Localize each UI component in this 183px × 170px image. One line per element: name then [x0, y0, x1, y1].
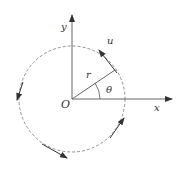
velocity-label: u [107, 35, 113, 46]
angle-arc [95, 83, 100, 99]
polar-diagram: y x O r θ u [0, 0, 183, 170]
y-axis-label: y [60, 21, 67, 32]
radius-label: r [86, 69, 92, 80]
origin-label: O [61, 98, 70, 111]
angle-label: θ [106, 84, 112, 95]
velocity-arrow-u [99, 50, 117, 73]
tangent-arrow-left [17, 82, 23, 100]
tangent-arrow-lower-right [110, 118, 124, 138]
x-axis-label: x [154, 102, 160, 113]
